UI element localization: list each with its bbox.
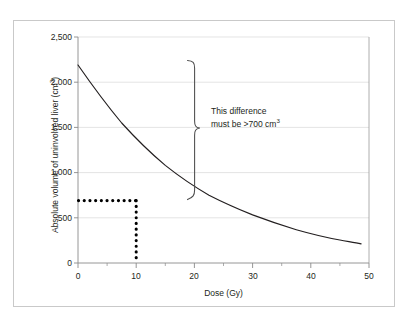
x-tick-label-50: 50 (359, 272, 379, 281)
plot-canvas (0, 0, 410, 323)
y-axis-title-main: Absolute volume of uninvolved liver (cm (50, 83, 60, 233)
y-axis-title-tail: ) (50, 77, 60, 80)
x-axis-title: Dose (Gy) (78, 288, 369, 298)
difference-annotation: This difference must be >700 cm3 (211, 105, 280, 131)
y-axis (74, 37, 78, 263)
chart-figure: 2,500 2,000 1,500 1,000 500 0 0 10 20 30… (0, 0, 410, 323)
y-axis-title-superscript: 3 (48, 80, 55, 83)
x-axis (78, 263, 369, 268)
difference-brace-icon (188, 61, 200, 200)
x-tick-label-40: 40 (301, 272, 321, 281)
annotation-line-1: This difference (211, 105, 280, 118)
y-axis-title: Absolute volume of uninvolved liver (cm3… (50, 40, 60, 270)
annotation-superscript: 3 (276, 117, 279, 124)
annotation-line-2-text: must be >700 cm (211, 119, 276, 129)
x-tick-label-30: 30 (243, 272, 263, 281)
x-tick-label-10: 10 (126, 272, 146, 281)
x-tick-label-20: 20 (184, 272, 204, 281)
x-tick-label-0: 0 (68, 272, 88, 281)
annotation-line-2: must be >700 cm3 (211, 118, 280, 131)
threshold-guide-lines (79, 201, 137, 263)
dose-volume-curve (78, 65, 361, 244)
